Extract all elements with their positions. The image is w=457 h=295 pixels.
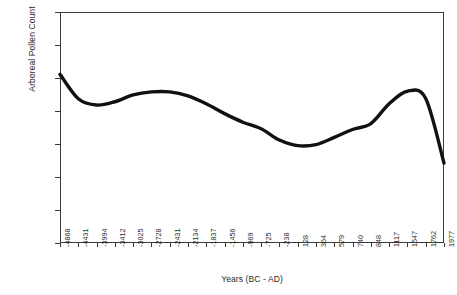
x-tick-mark (225, 243, 226, 247)
x-tick-mark (115, 243, 116, 247)
x-tick-mark (371, 243, 372, 247)
x-tick-mark (60, 243, 61, 247)
x-tick-mark (243, 243, 244, 247)
x-tick-mark (206, 243, 207, 247)
x-tick-mark (133, 243, 134, 247)
x-tick-mark (426, 243, 427, 247)
x-tick-mark (261, 243, 262, 247)
x-tick-mark (78, 243, 79, 247)
x-tick-mark (407, 243, 408, 247)
x-tick-mark (170, 243, 171, 247)
x-tick-mark (353, 243, 354, 247)
x-tick-mark (279, 243, 280, 247)
x-tick-mark (151, 243, 152, 247)
x-tick-mark (188, 243, 189, 247)
x-tick-mark (316, 243, 317, 247)
chart-figure: Arboreal Pollen Count 050010001500200025… (0, 0, 457, 295)
y-axis-title: Arboreal Pollen Count (27, 0, 37, 129)
series-line-arboreal-pollen-count (60, 74, 444, 163)
x-tick-mark (97, 243, 98, 247)
x-tick-mark (298, 243, 299, 247)
x-tick-mark (334, 243, 335, 247)
x-tick-mark (389, 243, 390, 247)
x-axis-title: Years (BC - AD) (60, 274, 444, 284)
x-tick-mark (444, 243, 445, 247)
data-series-layer (60, 12, 444, 243)
